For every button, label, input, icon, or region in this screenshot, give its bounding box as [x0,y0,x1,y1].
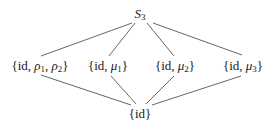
node-id-label: {id} [129,106,152,121]
brace-open: {id, [11,58,34,73]
edge-s3-mu1 [109,23,135,56]
edge-s3-rho [41,23,132,56]
node-s3: S3 [135,7,146,20]
node-id-rho1-rho2: {id, ρ1, ρ2} [11,59,68,72]
brace-open: {id, [88,58,111,73]
edge-rho-id [41,75,131,105]
brace-close: } [62,58,68,73]
brace-close: } [257,58,263,73]
edge-s3-mu2 [147,23,174,56]
node-id-mu1: {id, μ1} [88,59,128,72]
edge-mu2-id [146,76,174,104]
node-id-mu3: {id, μ3} [223,59,263,72]
node-id-mu2: {id, μ2} [155,59,195,72]
edge-s3-mu3 [153,23,242,55]
brace-close: } [189,58,195,73]
brace-close: } [122,58,128,73]
brace-open: {id, [155,58,178,73]
edge-mu3-id [152,76,241,105]
node-id: {id} [129,107,152,120]
brace-open: {id, [223,58,246,73]
node-s3-sub: 3 [141,12,146,22]
